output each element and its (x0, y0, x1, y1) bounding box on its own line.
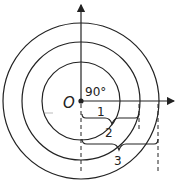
concentric-circles-diagram: O 90° 1 2 3 (0, 0, 182, 193)
ring-label-2: 2 (105, 126, 113, 140)
brace-2 (82, 114, 139, 124)
origin-point (78, 98, 83, 103)
origin-label: O (63, 94, 75, 112)
ring-label-3: 3 (114, 154, 122, 168)
ring-label-1: 1 (97, 105, 105, 119)
angle-label: 90° (85, 85, 106, 99)
